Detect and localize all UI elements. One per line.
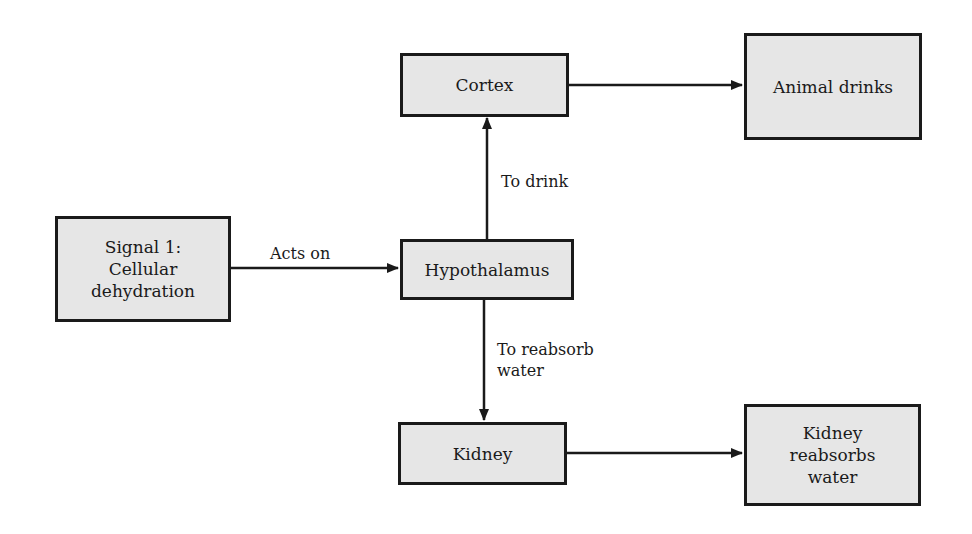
node-signal-cellular-dehydration: Signal 1: Cellular dehydration xyxy=(55,216,231,322)
node-hypothalamus: Hypothalamus xyxy=(400,239,574,300)
node-animal-drinks: Animal drinks xyxy=(744,33,922,140)
node-text: reabsorbs xyxy=(790,444,876,466)
edge-label-text: water xyxy=(497,360,594,381)
node-text: Cortex xyxy=(456,74,514,96)
node-cortex: Cortex xyxy=(400,53,569,117)
node-kidney: Kidney xyxy=(398,422,567,485)
edge-label-to-drink: To drink xyxy=(501,171,568,192)
node-text: Kidney xyxy=(453,443,513,465)
node-text: Kidney xyxy=(790,422,876,444)
node-kidney-reabsorbs-water: Kidney reabsorbs water xyxy=(744,404,921,506)
node-text: Signal 1: xyxy=(91,236,195,258)
node-text: Cellular xyxy=(91,258,195,280)
node-text: Hypothalamus xyxy=(425,259,550,281)
edge-label-to-reabsorb: To reabsorb water xyxy=(497,339,594,381)
edge-label-text: To reabsorb xyxy=(497,339,594,360)
node-text: water xyxy=(790,466,876,488)
node-text: dehydration xyxy=(91,280,195,302)
edge-label-acts-on: Acts on xyxy=(270,243,330,264)
node-text: Animal drinks xyxy=(773,76,893,98)
